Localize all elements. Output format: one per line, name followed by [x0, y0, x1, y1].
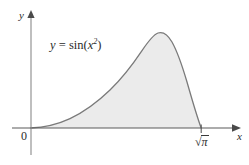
axis-label-y: y	[19, 10, 24, 21]
math-figure-area-under-curve: y x 0 y = sin(x2) √π	[0, 0, 249, 165]
plot-canvas	[0, 0, 249, 165]
radicand-pi: π	[202, 135, 208, 149]
equation-function-open: sin(	[69, 38, 88, 52]
y-axis-arrow-icon	[27, 10, 34, 18]
x-tick-label-sqrt-pi: √π	[194, 135, 209, 148]
equation-close-paren: )	[97, 38, 101, 52]
equation-equals: =	[56, 38, 69, 52]
curve-equation-label: y = sin(x2)	[50, 38, 101, 52]
origin-label: 0	[21, 130, 27, 142]
radicand-overbar: π	[201, 135, 209, 148]
axis-label-x: x	[237, 131, 242, 142]
sqrt-group: √π	[194, 135, 209, 148]
